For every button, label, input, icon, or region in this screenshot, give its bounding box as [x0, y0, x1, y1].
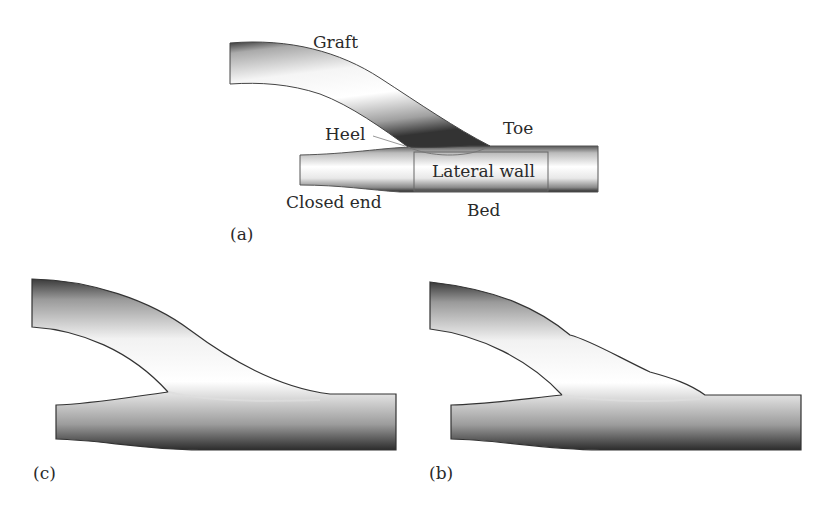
anastomosis-figure [0, 0, 831, 516]
closed-end-label: Closed end [286, 194, 382, 211]
heel-label: Heel [325, 126, 365, 143]
graft-label: Graft [313, 34, 358, 51]
toe-label: Toe [503, 120, 533, 137]
panel-b-label: (b) [429, 465, 453, 482]
panel-c-model [32, 279, 396, 450]
panel-b-model [430, 282, 801, 450]
bed-label: Bed [467, 202, 500, 219]
lateral-wall-label: Lateral wall [432, 163, 535, 180]
panel-c-label: (c) [33, 465, 56, 482]
panel-a-model [230, 42, 598, 192]
panel-a-label: (a) [230, 226, 253, 243]
